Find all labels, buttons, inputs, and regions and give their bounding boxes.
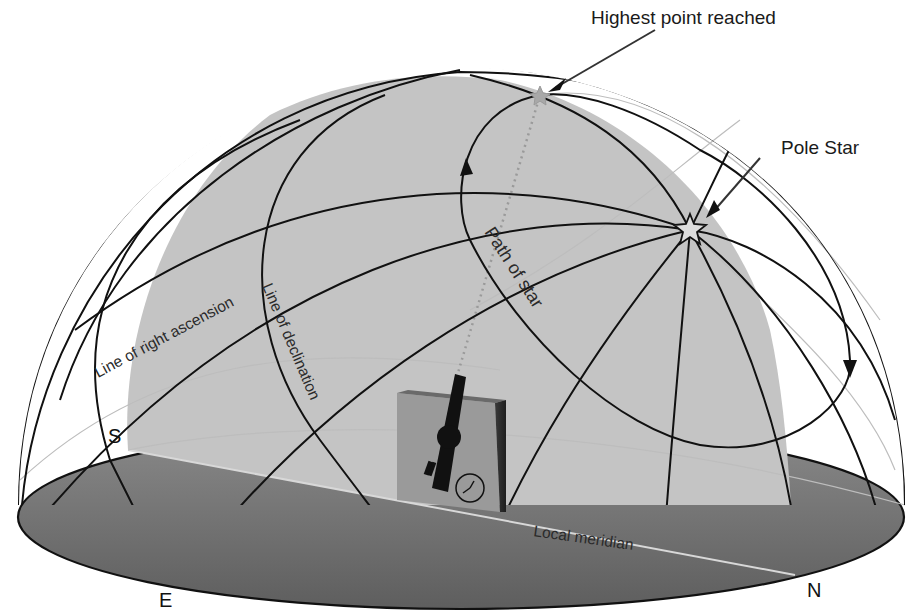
highest-point-label: Highest point reached (591, 7, 776, 28)
compass-south: S (108, 425, 121, 447)
compass-east: E (159, 589, 172, 611)
celestial-sphere-diagram: Highest point reached Pole Star Path of … (0, 0, 919, 616)
pole-star-label: Pole Star (781, 137, 860, 158)
compass-north: N (807, 579, 821, 601)
path-arrow-down-icon (843, 360, 857, 378)
